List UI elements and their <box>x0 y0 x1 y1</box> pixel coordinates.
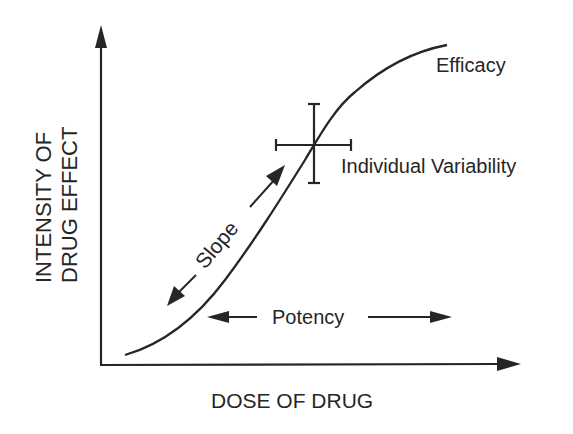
potency-label: Potency <box>272 306 344 328</box>
x-axis-arrow-icon <box>497 357 521 371</box>
diagram-canvas: Slope Potency Efficacy Individual Variab… <box>0 0 573 434</box>
x-axis <box>100 357 521 371</box>
y-axis <box>95 25 107 365</box>
variability-label: Individual Variability <box>341 155 516 177</box>
y-axis-arrow-icon <box>95 25 107 48</box>
y-axis-label-line1: INTENSITY OF <box>31 132 56 283</box>
efficacy-label: Efficacy <box>436 54 506 76</box>
x-axis-label: DOSE OF DRUG <box>211 389 373 412</box>
dose-response-diagram: Slope Potency Efficacy Individual Variab… <box>0 0 573 434</box>
variability-crosshair-icon <box>276 104 351 183</box>
slope-label: Slope <box>190 217 242 273</box>
y-axis-label-line2: DRUG EFFECT <box>57 127 82 283</box>
